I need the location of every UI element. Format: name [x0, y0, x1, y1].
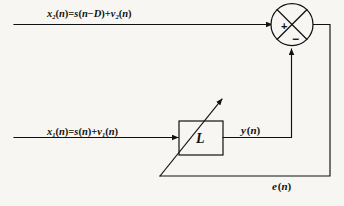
summing-junction-minus-sign: − [292, 33, 299, 45]
figure-canvas: x2(n)=s(n−D)+v2(n) x1(n)=s(n)+v1(n) y (n… [0, 0, 344, 206]
block-diagram [0, 0, 344, 206]
label-filter-output: y (n) [241, 124, 260, 136]
label-error-signal: e (n) [272, 180, 291, 192]
label-primary-input: x1(n)=s(n)+v1(n) [47, 126, 118, 138]
summing-junction-plus-sign: + [281, 21, 287, 32]
filter-block-label: L [196, 131, 205, 147]
label-reference-input: x2(n)=s(n−D)+v2(n) [47, 8, 132, 20]
